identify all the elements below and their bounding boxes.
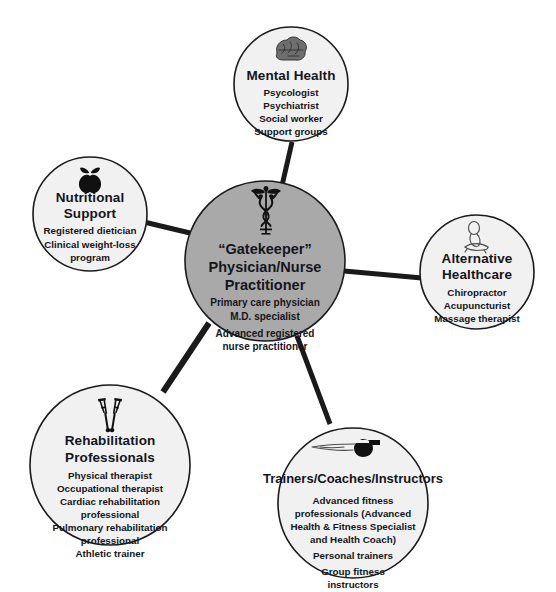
connector-center-to-nutritional-support (144, 222, 190, 233)
node-trainers-coaches-instructors-item-1: professionals (Advanced (295, 508, 412, 519)
node-rehabilitation-professionals-item-0: Physical therapist (68, 470, 153, 481)
node-rehabilitation-professionals-item-6: Athletic trainer (75, 548, 144, 559)
node-alternative-healthcare-item-0: Chiropractor (447, 287, 507, 298)
connector-center-to-rehabilitation-professionals (163, 323, 209, 392)
node-nutritional-support-item-0: Registered dietician (43, 225, 136, 236)
node-trainers-coaches-instructors[interactable]: Trainers/Coaches/Instructors Advanced fi… (263, 428, 443, 590)
node-gatekeeper-item-4: nurse practitioner (222, 341, 307, 352)
node-rehabilitation-professionals-title-1: Professionals (65, 450, 155, 465)
node-nutritional-support-title-0: Nutritional (56, 190, 125, 205)
node-nutritional-support[interactable]: Nutritional Support Registered dietician… (33, 157, 147, 271)
node-gatekeeper-item-3: Advanced registered (216, 328, 315, 339)
node-mental-health-title-0: Mental Health (246, 68, 335, 83)
node-alternative-healthcare-item-1: Acupuncturist (444, 300, 511, 311)
node-rehabilitation-professionals-item-2: Cardiac rehabilitation (60, 496, 160, 507)
node-trainers-coaches-instructors-item-8: instructors (327, 579, 379, 590)
node-rehabilitation-professionals-item-1: Occupational therapist (57, 483, 164, 494)
node-nutritional-support-item-1: Clinical weight-loss (44, 239, 136, 250)
node-gatekeeper-title-2: Practitioner (225, 277, 306, 293)
node-trainers-coaches-instructors-title-0: Trainers/Coaches/Instructors (263, 471, 443, 486)
node-gatekeeper-title-1: Physician/Nurse (209, 259, 322, 275)
node-nutritional-support-title-1: Support (64, 206, 117, 221)
node-trainers-coaches-instructors-item-7: Group fitness (321, 566, 385, 577)
node-trainers-coaches-instructors-item-3: and Health Coach) (310, 534, 396, 545)
node-alternative-healthcare-title-0: Alternative (442, 251, 513, 266)
node-alternative-healthcare-item-2: Massage therapist (434, 313, 520, 324)
node-alternative-healthcare[interactable]: Alternative Healthcare Chiropractor Acup… (420, 215, 534, 329)
node-rehabilitation-professionals-item-5: professional (81, 535, 140, 546)
gatekeeper-diagram: Mental Health Psycologist Psychiatrist S… (0, 0, 556, 592)
node-nutritional-support-item-2: program (70, 252, 110, 263)
node-alternative-healthcare-title-1: Healthcare (442, 267, 512, 282)
node-rehabilitation-professionals-item-3: professional (81, 509, 140, 520)
node-rehabilitation-professionals-title-0: Rehabilitation (65, 433, 156, 448)
node-mental-health-item-2: Social worker (259, 113, 323, 124)
connector-center-to-alternative-healthcare (344, 271, 422, 278)
node-mental-health[interactable]: Mental Health Psycologist Psychiatrist S… (234, 27, 348, 141)
node-mental-health-item-0: Psycologist (264, 87, 320, 98)
node-rehabilitation-professionals-item-4: Pulmonary rehabilitation (53, 522, 168, 533)
node-mental-health-item-3: Support groups (254, 126, 328, 137)
node-trainers-coaches-instructors-item-5: Personal trainers (313, 550, 394, 561)
node-rehabilitation-professionals[interactable]: Rehabilitation Professionals Physical th… (30, 385, 190, 559)
node-trainers-coaches-instructors-item-2: Health & Fitness Specialist (290, 521, 416, 532)
diagram-canvas: Mental Health Psycologist Psychiatrist S… (0, 0, 556, 592)
node-mental-health-item-1: Psychiatrist (263, 100, 319, 111)
node-gatekeeper-item-1: M.D. specialist (230, 311, 300, 322)
node-gatekeeper-title-0: “Gatekeeper” (218, 241, 312, 257)
node-trainers-coaches-instructors-item-0: Advanced fitness (312, 495, 394, 506)
node-gatekeeper-item-0: Primary care physician (210, 297, 320, 308)
